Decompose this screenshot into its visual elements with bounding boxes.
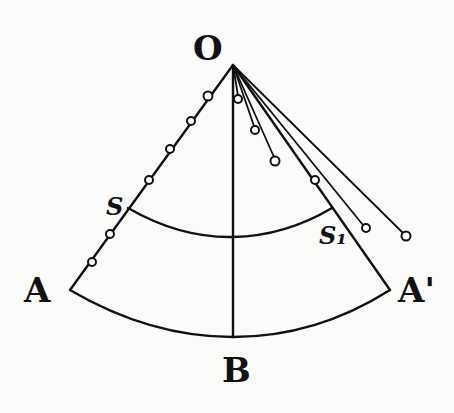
pendulum-bob (234, 95, 242, 103)
bead (166, 145, 174, 153)
pendulum-bob (402, 232, 411, 241)
bead (106, 230, 114, 238)
pendulum-sector-diagram: O S S₁ A A' B (0, 0, 454, 413)
pendulum-bob (271, 157, 280, 166)
bead (204, 92, 213, 101)
label-b: B (222, 350, 251, 390)
bead (145, 176, 153, 184)
pendulum-bob (362, 224, 370, 232)
label-s: S (106, 192, 123, 221)
label-a: A (23, 270, 51, 310)
pendulum-bob (311, 176, 319, 184)
inner-arc-ss1 (128, 208, 332, 237)
label-a-prime: A' (397, 270, 435, 310)
pendulum-bob (251, 126, 259, 134)
bead (88, 258, 96, 266)
outer-arc-ab (70, 290, 390, 337)
left-edge-oa (70, 65, 233, 290)
bead (187, 117, 195, 125)
label-o: O (193, 28, 223, 68)
label-s1: S₁ (319, 221, 347, 250)
